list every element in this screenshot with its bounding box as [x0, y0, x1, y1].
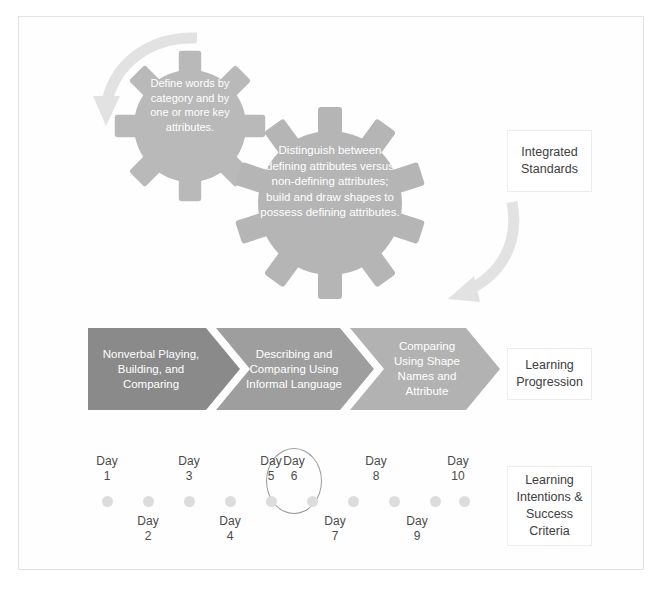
day-label-10-word: Day	[436, 454, 480, 469]
day-label-2-word: Day	[126, 514, 170, 529]
progression-step-1[interactable]: Nonverbal Playing, Building, and Compari…	[88, 328, 240, 410]
day-label-7-num: 7	[313, 529, 357, 544]
day-label-4[interactable]: Day 4	[208, 514, 252, 544]
day-label-8-word: Day	[354, 454, 398, 469]
caption-integrated-standards-label: Integrated Standards	[514, 144, 585, 178]
caption-integrated-standards: Integrated Standards	[507, 130, 592, 192]
gear-standard-2: Distinguish between defining attributes …	[230, 103, 430, 303]
day-label-1-num: 1	[85, 469, 129, 484]
day-label-7-word: Day	[313, 514, 357, 529]
day-label-6-word: Day	[272, 454, 316, 469]
day-label-2[interactable]: Day 2	[126, 514, 170, 544]
day-label-3[interactable]: Day 3	[167, 454, 211, 484]
day-dot[interactable]	[266, 496, 277, 507]
day-dot[interactable]	[459, 496, 470, 507]
day-dot[interactable]	[348, 496, 359, 507]
day-dot[interactable]	[430, 496, 441, 507]
day-label-6-num: 6	[272, 469, 316, 484]
day-label-4-num: 4	[208, 529, 252, 544]
day-dot[interactable]	[143, 496, 154, 507]
day-label-3-num: 3	[167, 469, 211, 484]
progression-step-1-label: Nonverbal Playing, Building, and Compari…	[88, 347, 214, 392]
day-label-9-word: Day	[395, 514, 439, 529]
learning-progression-band: Nonverbal Playing, Building, and Compari…	[88, 328, 476, 410]
day-dot[interactable]	[225, 496, 236, 507]
day-label-8[interactable]: Day 8	[354, 454, 398, 484]
day-label-9-num: 9	[395, 529, 439, 544]
progression-step-3-label: Comparing Using Shape Names and Attribut…	[376, 339, 478, 399]
day-label-2-num: 2	[126, 529, 170, 544]
caption-learning-progression-label: Learning Progression	[514, 357, 585, 391]
caption-learning-progression: Learning Progression	[507, 348, 592, 400]
day-label-10-num: 10	[436, 469, 480, 484]
diagram-canvas: Define words by category and by one or m…	[0, 0, 660, 589]
day-dot[interactable]	[184, 496, 195, 507]
day-label-3-word: Day	[167, 454, 211, 469]
day-label-4-word: Day	[208, 514, 252, 529]
day-dot[interactable]	[389, 496, 400, 507]
day-dot[interactable]	[102, 496, 113, 507]
day-label-10[interactable]: Day 10	[436, 454, 480, 484]
day-label-1-word: Day	[85, 454, 129, 469]
gear-shape-icon	[230, 103, 430, 303]
day-label-1[interactable]: Day 1	[85, 454, 129, 484]
day-label-7[interactable]: Day 7	[313, 514, 357, 544]
day-timeline: Day 1 Day 3 Day 5 Day 6 Day 8 Day 10 Day…	[88, 450, 478, 562]
day-label-8-num: 8	[354, 469, 398, 484]
day-label-6[interactable]: Day 6	[272, 454, 316, 484]
caption-learning-intentions-label: Learning Intentions & Success Criteria	[514, 472, 585, 540]
day-dot[interactable]	[307, 496, 318, 507]
caption-learning-intentions: Learning Intentions & Success Criteria	[507, 466, 592, 546]
day-label-9[interactable]: Day 9	[395, 514, 439, 544]
progression-step-2-label: Describing and Comparing Using Informal …	[238, 347, 350, 392]
